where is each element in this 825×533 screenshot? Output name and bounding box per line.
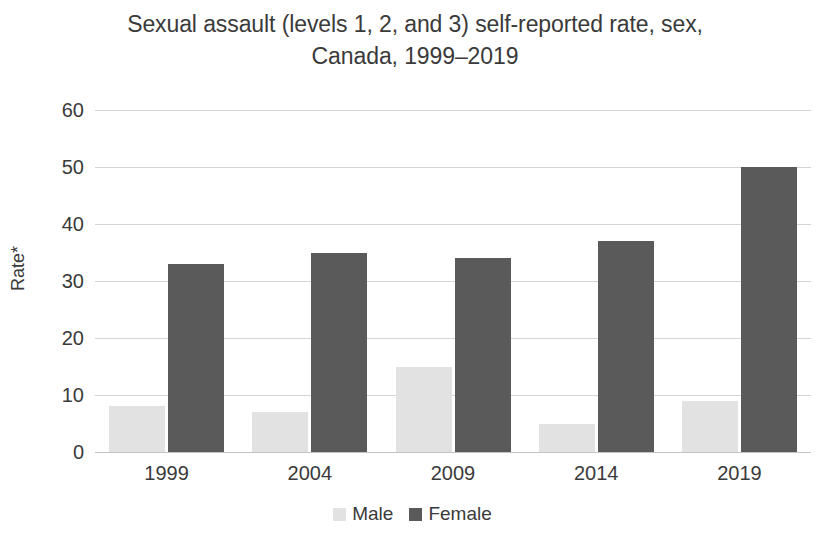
bar-group <box>238 110 381 452</box>
bar-female-2014 <box>598 241 654 452</box>
bar-male-2014 <box>539 424 595 453</box>
legend-item-female: Female <box>409 503 491 525</box>
chart-title: Sexual assault (levels 1, 2, and 3) self… <box>70 8 760 72</box>
bar-female-2019 <box>741 167 797 452</box>
bar-male-2004 <box>252 412 308 452</box>
bar-female-1999 <box>168 264 224 452</box>
y-axis-tick-label: 0 <box>24 441 84 464</box>
y-axis-tick-label: 20 <box>24 327 84 350</box>
bar-group <box>668 110 811 452</box>
legend-label: Female <box>428 503 491 525</box>
x-axis-tick-labels: 19992004200920142019 <box>95 462 811 485</box>
legend-swatch-icon <box>333 508 346 521</box>
x-axis-tick-label: 2019 <box>668 462 811 485</box>
y-axis-title: Rate* <box>8 234 29 304</box>
y-axis-tick-label: 30 <box>24 270 84 293</box>
bar-group <box>381 110 524 452</box>
y-axis-tick-label: 50 <box>24 156 84 179</box>
legend-swatch-icon <box>409 508 422 521</box>
bar-female-2009 <box>455 258 511 452</box>
bar-male-2019 <box>682 401 738 452</box>
x-axis-tick-label: 2009 <box>381 462 524 485</box>
bar-series-container <box>95 110 811 452</box>
y-axis-tick-label: 10 <box>24 384 84 407</box>
legend-item-male: Male <box>333 503 393 525</box>
bar-male-1999 <box>109 406 165 452</box>
bar-male-2009 <box>396 367 452 453</box>
y-axis-tick-label: 60 <box>24 99 84 122</box>
x-axis-tick-label: 1999 <box>95 462 238 485</box>
axis-baseline <box>95 452 811 453</box>
chart-legend: MaleFemale <box>0 503 825 525</box>
y-axis-tick-label: 40 <box>24 213 84 236</box>
x-axis-tick-label: 2014 <box>525 462 668 485</box>
bar-group <box>525 110 668 452</box>
bar-chart: Sexual assault (levels 1, 2, and 3) self… <box>0 0 825 533</box>
legend-label: Male <box>352 503 393 525</box>
bar-group <box>95 110 238 452</box>
bar-female-2004 <box>311 253 367 453</box>
x-axis-tick-label: 2004 <box>238 462 381 485</box>
